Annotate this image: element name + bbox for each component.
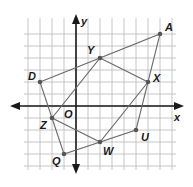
y-axis-label: y <box>80 15 88 27</box>
y-axis-up-arrow-icon <box>72 14 80 24</box>
point-y <box>98 56 103 61</box>
point-u <box>134 128 139 133</box>
x-axis-label: x <box>173 111 181 123</box>
grid-lines <box>24 18 176 170</box>
point-q <box>62 152 67 157</box>
x-axis-left-arrow-icon <box>10 102 20 110</box>
point-label-u: U <box>141 131 150 143</box>
point-label-z: Z <box>39 119 48 131</box>
point-label-q: Q <box>52 155 61 167</box>
point-label-d: D <box>28 70 36 82</box>
point-label-a: A <box>164 21 173 33</box>
point-label-x: X <box>152 72 161 84</box>
y-axis-down-arrow-icon <box>72 164 80 174</box>
point-d <box>38 80 43 85</box>
point-label-w: W <box>103 145 115 157</box>
coordinate-grid-diagram: x y O AYDXZUWQ <box>0 0 193 187</box>
point-w <box>98 140 103 145</box>
origin-label: O <box>64 108 73 120</box>
point-a <box>158 32 163 37</box>
point-z <box>50 116 55 121</box>
x-axis-right-arrow-icon <box>174 102 184 110</box>
point-x <box>146 80 151 85</box>
